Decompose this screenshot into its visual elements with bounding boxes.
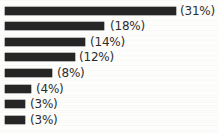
bar-4[interactable]	[5, 53, 75, 61]
bar-label-2: (18%)	[110, 20, 145, 32]
bar-2[interactable]	[5, 22, 104, 30]
bar-row: (3%)	[0, 96, 218, 112]
bar-chart: (31%) (18%) (14%) (12%) (8%) (4%) (3%)	[0, 0, 218, 133]
bar-5[interactable]	[5, 69, 52, 77]
bar-1[interactable]	[5, 7, 176, 15]
bar-row: (3%)	[0, 112, 218, 128]
bar-label-6: (4%)	[36, 83, 64, 95]
bar-label-4: (12%)	[79, 51, 114, 63]
bar-label-8: (3%)	[30, 114, 58, 126]
bar-row: (31%)	[0, 3, 218, 19]
bar-7[interactable]	[5, 100, 25, 108]
plot-area: (31%) (18%) (14%) (12%) (8%) (4%) (3%)	[0, 0, 218, 133]
bar-8[interactable]	[5, 116, 25, 124]
bar-label-3: (14%)	[90, 36, 125, 48]
bar-row: (12%)	[0, 49, 218, 65]
bar-label-1: (31%)	[180, 5, 215, 17]
bar-3[interactable]	[5, 38, 85, 46]
bar-row: (8%)	[0, 65, 218, 81]
bar-row: (4%)	[0, 81, 218, 97]
bar-row: (14%)	[0, 34, 218, 50]
bar-label-5: (8%)	[57, 67, 85, 79]
bar-6[interactable]	[5, 85, 31, 93]
bar-label-7: (3%)	[30, 98, 58, 110]
bar-row: (18%)	[0, 18, 218, 34]
